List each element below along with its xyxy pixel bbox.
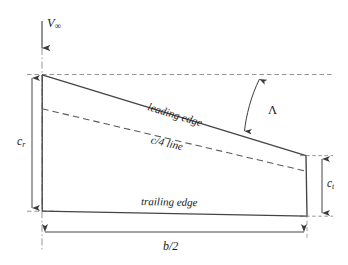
semispan-dimension-group bbox=[45, 214, 307, 240]
semispan-label: b/2 bbox=[163, 240, 178, 252]
tip-chord-subscript: t bbox=[332, 182, 334, 191]
infinity-subscript: ∞ bbox=[55, 21, 61, 31]
wing-planform-figure: V∞ cr ct b/2 Λ leading edge c/4 line tra… bbox=[0, 0, 348, 265]
sweep-angle-arc bbox=[245, 79, 260, 131]
sweep-angle-label: Λ bbox=[268, 104, 277, 117]
trailing-edge-label: trailing edge bbox=[141, 196, 198, 208]
root-chord-subscript: r bbox=[22, 140, 25, 149]
trailing-edge-line bbox=[42, 211, 307, 216]
tip-chord-label: ct bbox=[327, 178, 334, 190]
root-chord-label: cr bbox=[17, 135, 26, 147]
tip-chord-edge bbox=[306, 156, 307, 217]
planform-drawing bbox=[0, 0, 348, 265]
freestream-velocity-label: V∞ bbox=[47, 17, 61, 30]
